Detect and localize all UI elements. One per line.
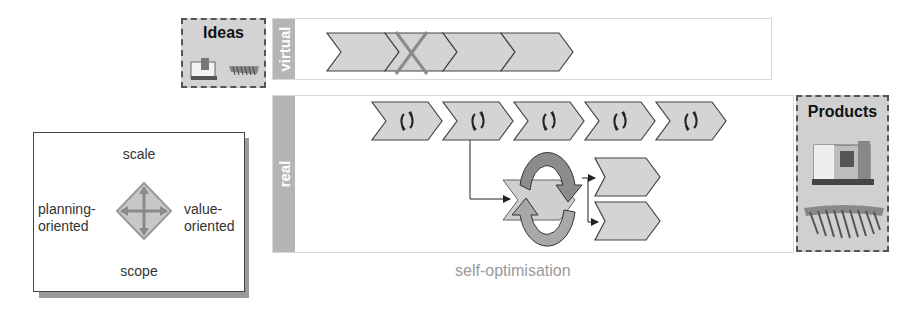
products-title: Products [798, 103, 887, 121]
products-box: Products [796, 95, 889, 252]
virtual-lane-label: virtual [273, 19, 295, 79]
real-chevron-2 [443, 102, 513, 140]
machine-tool-icon [189, 56, 219, 82]
virtual-chevron-1 [327, 33, 399, 71]
output-chevron-2 [595, 202, 660, 240]
machine-tool-icon [810, 139, 876, 189]
self-optimisation-caption: self-optimisation [455, 262, 571, 280]
real-lane-label: real [273, 96, 295, 252]
real-chevron-4 [585, 102, 655, 140]
connector-arrow [470, 140, 510, 199]
real-chevron-1 [372, 102, 442, 140]
gear-blades-icon [227, 62, 261, 80]
real-process-diagram [370, 100, 740, 260]
legend-scale-label: scale [34, 146, 244, 163]
legend-value-oriented-label: value- oriented [184, 201, 235, 235]
virtual-chevron-row [325, 30, 575, 75]
gear-blades-icon [802, 202, 886, 242]
legend-scope-label: scope [34, 263, 244, 280]
ideas-box: Ideas [181, 18, 266, 88]
legend-box: scale planning- oriented value- oriented… [33, 132, 245, 292]
ideas-title: Ideas [183, 24, 264, 42]
legend-planning-oriented-label: planning- oriented [38, 201, 96, 235]
real-chevron-3 [514, 102, 584, 140]
four-way-diamond-icon [114, 180, 174, 242]
output-chevron-1 [595, 158, 660, 196]
real-chevron-5 [656, 102, 726, 140]
